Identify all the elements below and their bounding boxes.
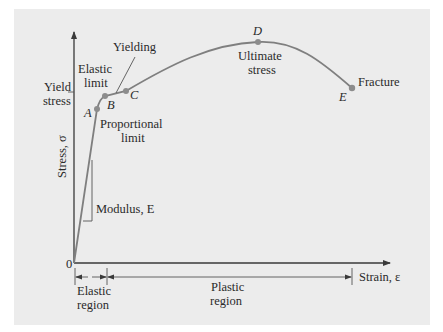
elastic-region-label-line1: Elastic [77,284,111,298]
elastic-limit-label-line2: limit [84,76,108,90]
point-a-marker [94,106,100,112]
plastic-region-label-line1: Plastic [211,280,245,294]
yielding-label: Yielding [113,40,157,54]
point-a-label: A [83,106,92,120]
fracture-label: Fracture [358,75,400,89]
ultimate-stress-label-line1: Ultimate [238,49,282,63]
point-b-label: B [107,98,115,112]
yield-stress-label-line1: Yield [44,80,72,94]
elastic-region-label-line2: region [77,298,110,312]
point-e-label: E [338,90,347,104]
stress-strain-curve [74,42,352,263]
point-d-marker [255,39,261,45]
x-axis-label: Strain, ε [359,270,400,284]
point-c-marker [123,88,129,94]
stress-strain-diagram: A B C D E Yielding Elastic limit Proport… [0,0,443,332]
yield-stress-label-line2: stress [43,94,71,108]
y-axis-label: Stress, σ [55,135,69,178]
point-d-label: D [252,24,262,38]
proportional-limit-label-line2: limit [121,131,145,145]
point-c-label: C [130,88,139,102]
point-e-marker [349,85,355,91]
origin-label: 0 [66,257,72,271]
elastic-limit-label-line1: Elastic [78,62,112,76]
plastic-region-label-line2: region [210,294,243,308]
modulus-label: Modulus, E [96,202,155,216]
ultimate-stress-label-line2: stress [248,63,276,77]
proportional-limit-label-line1: Proportional [100,117,163,131]
